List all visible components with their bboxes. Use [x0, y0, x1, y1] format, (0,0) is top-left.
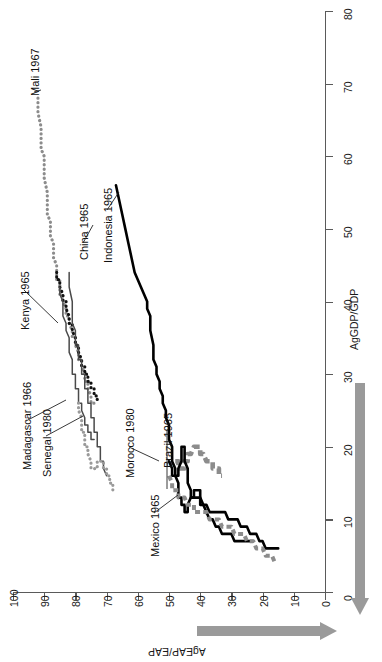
- leader-line: [107, 192, 119, 210]
- leader-line: [154, 495, 178, 513]
- annotation-leader-lines: [0, 0, 382, 662]
- leader-line: [26, 400, 66, 421]
- horizontal-direction-arrow-shaft: [197, 626, 320, 636]
- vertical-direction-arrow-shaft: [355, 383, 365, 598]
- leader-line: [24, 290, 58, 323]
- leader-line: [129, 447, 159, 461]
- chart-figure: 80706050403020100 AgGDP/GDP 100908070605…: [0, 0, 382, 662]
- vertical-direction-arrow-head: [351, 598, 369, 615]
- leader-line: [83, 225, 93, 243]
- horizontal-direction-arrow-head: [320, 622, 337, 640]
- leader-line: [34, 90, 41, 92]
- leader-line: [46, 416, 83, 436]
